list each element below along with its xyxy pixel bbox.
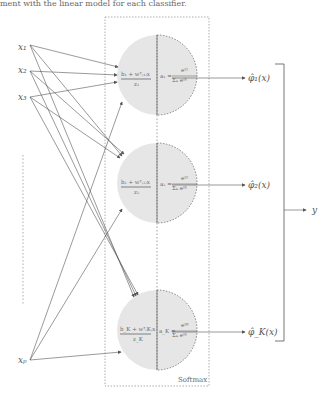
output-phiK: φ̂_K(x) [248,327,278,338]
node1-z: z₁ [134,81,139,87]
node2-z: z₂ [134,189,139,195]
node3-num: eᶻᴷ [181,322,189,328]
node2-num: eᶻ² [181,175,188,181]
node3-linear: b_K + wᵀ₍K₎x [120,326,156,333]
node1-a: a₁ = [160,73,172,79]
output-y: y [311,205,318,215]
node2-linear: b₂ + wᵀ₍₂₎x [121,179,151,185]
aggregation-bracket [275,64,284,341]
softmax-label: Softmax [178,376,207,384]
node1-linear: b₁ + wᵀ₍₁₎x [121,71,151,77]
node3-z: z_K [133,336,144,343]
output-phi2: φ̂₂(x) [248,180,270,190]
input-xp: xₚ [18,355,27,365]
node3-den: Σₖ eᶻᵏ [172,332,188,338]
input-x2: x₂ [18,65,27,75]
input-x3: x₃ [18,92,27,102]
node2-den: Σₖ eᶻᵏ [172,185,188,191]
caption-top: ment with the linear model for each clas… [0,0,187,8]
node1-num: eᶻ¹ [181,67,188,73]
output-phi1: φ̂₁(x) [248,73,270,83]
node2-a: a₂ = [160,181,172,187]
softmax-network-diagram: ment with the linear model for each clas… [0,0,336,405]
input-x1: x₁ [18,42,27,52]
